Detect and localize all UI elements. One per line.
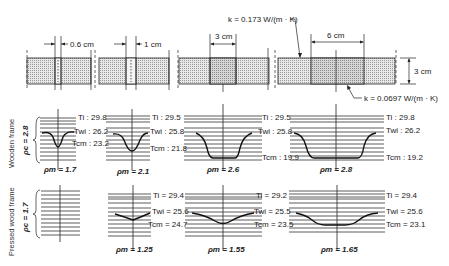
twi-label: Twi : 26.2 (386, 126, 421, 135)
k-frame-callout: k = 0.173 W/(m · K) (228, 15, 302, 58)
twi-label: Twi = 25.5 (254, 207, 291, 216)
isotherm-panel-2-4: Ti = 29.4 Twi = 25.6 Tcm = 23.1 ρm = 1.6… (289, 185, 426, 254)
specimen-3: 3 cm (178, 32, 269, 92)
twi-label: Twi : 26.2 (74, 127, 109, 136)
isotherm-panel-1-1: Ti : 29.8 Twi : 26.2 Tcm : 23.2 ρm = 1.7 (40, 109, 109, 174)
tcm-label: Tcm : 21.8 (150, 144, 187, 153)
specimen-2: 1 cm (95, 36, 169, 90)
gap-label-4: 6 cm (327, 31, 345, 40)
thermal-bridge-diagram: 0.6 cm 1 cm (0, 0, 449, 266)
thickness-dimension: 3 cm (400, 58, 432, 84)
tcm-label: Tcm : 19.2 (386, 153, 423, 162)
row-pressed-wood-frame: Pressed wood frame ρc = 1.7 (7, 185, 426, 256)
tcm-label: Tcm = 24.7 (148, 220, 188, 229)
gap-label-3: 3 cm (215, 32, 233, 41)
brace (33, 190, 40, 238)
brace (33, 117, 40, 163)
twi-label: Twi : 25.8 (150, 127, 185, 136)
gap-label-1: 0.6 cm (70, 40, 94, 49)
ti-label: Ti = 29.4 (153, 191, 185, 200)
isotherm-panel-1-4: Ti : 29.8 Twi : 26.2 Tcm : 19.2 ρm = 2.8 (290, 104, 423, 174)
tcm-label: Tcm : 23.2 (72, 139, 109, 148)
rho-m-label: ρm = 2.8 (319, 165, 353, 174)
specimen-4: 6 cm (275, 31, 396, 92)
gap-label-2: 1 cm (144, 40, 162, 49)
wall-sections: 0.6 cm 1 cm (27, 15, 438, 103)
row-wooden-frame: Wooden frame ρc = 2.8 Ti : 29.8 Twi : 26… (7, 104, 423, 176)
k-insulation-label: k = 0.0697 W/(m · K) (364, 94, 438, 103)
rho-m-label: ρm = 1.65 (320, 245, 358, 254)
ti-label: Ti = 29.2 (256, 191, 288, 200)
k-insulation-callout: k = 0.0697 W/(m · K) (347, 85, 438, 103)
rho-m-label: ρm = 2.6 (206, 165, 240, 174)
tcm-label: Tcm : 19.9 (262, 153, 299, 162)
ti-label: Ti = 29.4 (386, 191, 418, 200)
ti-label: Ti : 29.8 (386, 113, 415, 122)
twi-label: Twi = 25.6 (386, 207, 423, 216)
isotherm-panel-1-3: Ti : 29.5 Twi : 25.8 Tcm : 19.9 ρm = 2.6 (184, 104, 299, 174)
specimen-1: 0.6 cm (27, 36, 94, 90)
rho-m-label: ρm = 2.1 (116, 167, 150, 176)
ti-label: Ti : 29.5 (262, 113, 291, 122)
thickness-label: 3 cm (414, 67, 432, 76)
rho-c-wooden: ρc = 2.8 (21, 125, 30, 156)
rho-m-label: ρm = 1.7 (43, 165, 77, 174)
rho-m-label: ρm = 1.55 (207, 245, 245, 254)
ti-label: Ti : 29.8 (78, 113, 107, 122)
isotherm-panel-2-2: Ti = 29.4 Twi = 25.6 Tcm = 24.7 ρm = 1.2… (108, 185, 189, 254)
twi-label: Twi = 25.6 (152, 207, 189, 216)
k-frame-label: k = 0.173 W/(m · K) (228, 15, 298, 24)
tcm-label: Tcm = 23.5 (254, 220, 294, 229)
group-label-wooden: Wooden frame (7, 119, 16, 168)
ti-label: Ti : 29.5 (152, 113, 181, 122)
isotherm-panel-2-1 (41, 185, 80, 242)
group-label-pressed: Pressed wood frame (7, 187, 16, 256)
isotherm-panel-1-2: Ti : 29.5 Twi : 25.8 Tcm : 21.8 ρm = 2.1 (106, 109, 187, 176)
tcm-label: Tcm = 23.1 (386, 220, 426, 229)
rho-c-pressed: ρc = 1.7 (21, 202, 30, 233)
rho-m-label: ρm = 1.25 (115, 245, 153, 254)
isotherm-panel-2-3: Ti = 29.2 Twi = 25.5 Tcm = 23.5 ρm = 1.5… (185, 185, 294, 254)
twi-label: Twi : 25.8 (258, 127, 293, 136)
